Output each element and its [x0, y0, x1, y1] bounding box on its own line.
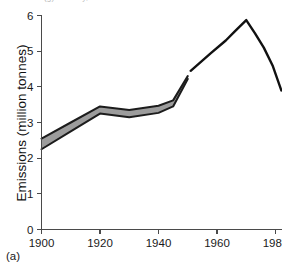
- y-axis-ticks: 0123456: [27, 10, 41, 236]
- emissions-chart: 0123456 19001920194019601980: [0, 0, 282, 272]
- emissions-line: [191, 20, 282, 90]
- x-axis-ticks: 19001920194019601980: [29, 230, 282, 249]
- x-tick-label: 1980: [263, 237, 282, 249]
- figure-panel-a: (g) industry, 1982 0123456 1900192019401…: [0, 0, 282, 272]
- uncertainty-band-fill: [42, 76, 188, 149]
- x-tick-label: 1900: [29, 237, 55, 249]
- panel-caption: (a): [6, 250, 20, 262]
- band-series: [42, 76, 188, 149]
- x-tick-label: 1920: [87, 237, 113, 249]
- y-axis-title: Emissions (million tonnes): [15, 25, 29, 221]
- x-tick-label: 1960: [204, 237, 230, 249]
- line-series: [191, 20, 282, 90]
- x-tick-label: 1940: [146, 237, 172, 249]
- y-tick-label: 6: [27, 10, 33, 22]
- y-tick-label: 0: [27, 224, 33, 236]
